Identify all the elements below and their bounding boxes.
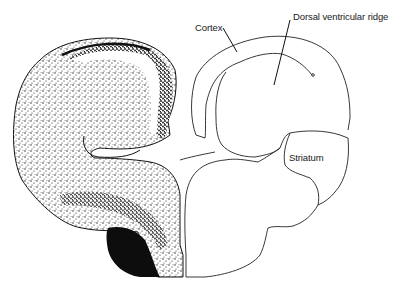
label-striatum: Striatum xyxy=(289,152,324,163)
cortex-leader-line xyxy=(223,28,237,52)
label-leader-lines xyxy=(223,20,290,85)
label-dorsal-ventricular-ridge: Dorsal ventricular ridge xyxy=(293,11,388,22)
left-histology-section xyxy=(14,38,183,277)
figure-svg xyxy=(0,0,410,287)
right-outline-section xyxy=(180,36,350,277)
brain-section-figure: Cortex Dorsal ventricular ridge Striatum xyxy=(0,0,410,287)
label-cortex: Cortex xyxy=(195,22,222,33)
dvr-leader-line xyxy=(274,20,290,85)
